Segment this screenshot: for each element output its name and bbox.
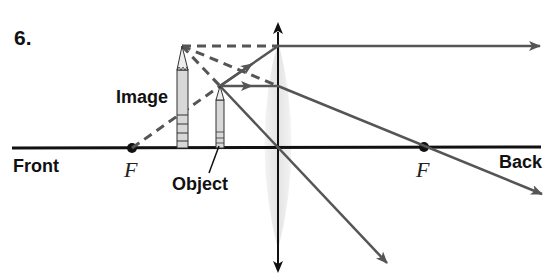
ray-focus-segment-arrow <box>220 64 252 86</box>
image-label: Image <box>116 87 168 108</box>
problem-number: 6. <box>14 26 32 50</box>
focal-label-back: F <box>416 157 429 183</box>
front-label: Front <box>13 156 59 177</box>
image-pencil-icon <box>177 46 188 148</box>
lens-ray-diagram: 6. Image Front Object Back F F <box>0 0 554 278</box>
back-label: Back <box>499 152 542 173</box>
focal-label-front: F <box>124 157 137 183</box>
object-leader-line <box>209 146 219 173</box>
ray-refracted-through-focus <box>278 86 542 194</box>
object-label: Object <box>172 174 228 195</box>
ray-through-center <box>220 86 387 263</box>
object-pencil-icon <box>216 86 224 148</box>
diagram-canvas <box>0 0 554 278</box>
